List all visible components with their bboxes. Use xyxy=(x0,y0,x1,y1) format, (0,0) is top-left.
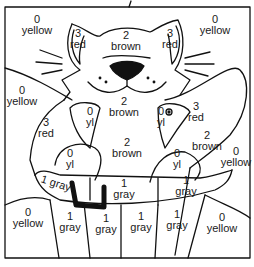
region-label: 0yellow xyxy=(200,14,231,36)
top-tick xyxy=(129,1,131,7)
whiskers-left xyxy=(36,50,62,74)
region-label: 1gray xyxy=(130,211,151,233)
region-label: 0yellow xyxy=(13,207,44,229)
region-label: 3red xyxy=(70,28,86,50)
coloring-page: 0yellow 3red 2brown 3red 0yellow 0yellow… xyxy=(0,0,254,267)
slat-line xyxy=(84,203,90,258)
region-label: 0yl xyxy=(86,106,94,128)
whisker-dot xyxy=(105,81,107,83)
fish-left-outline xyxy=(70,103,100,148)
region-label: 0yl xyxy=(66,148,74,170)
whisker-dot xyxy=(147,77,149,79)
whiskers-right xyxy=(185,52,214,76)
region-label: 1gray xyxy=(113,178,134,200)
region-label: 2brown xyxy=(109,96,139,118)
region-label: 3red xyxy=(38,117,54,139)
region-label: 1gray xyxy=(59,211,80,233)
bg-bottom-left-curve xyxy=(5,198,50,205)
brow-line xyxy=(103,56,150,58)
region-label: 2brown xyxy=(192,130,222,152)
region-label: 1gray xyxy=(95,213,116,235)
region-label: 3red xyxy=(162,28,178,50)
region-label: 0yellow xyxy=(207,212,238,234)
fish-eye-pupil xyxy=(168,111,170,113)
region-label: 1gray xyxy=(166,209,187,231)
region-label: 0yellow xyxy=(7,85,38,107)
slat-line xyxy=(188,195,205,258)
region-label: 2brown xyxy=(111,30,141,52)
region-label: 1gray xyxy=(175,175,196,197)
region-label: 0yellow xyxy=(221,146,252,168)
region-label: 3red xyxy=(188,101,204,123)
nose-icon xyxy=(110,62,144,81)
slat-line xyxy=(50,200,59,258)
region-label: 0yellow xyxy=(22,14,53,36)
region-label: 0yl xyxy=(173,148,181,170)
region-label: 2brown xyxy=(112,137,142,159)
slat-line xyxy=(155,205,158,258)
whisker-dot xyxy=(99,77,101,79)
basket-rim-top xyxy=(35,170,232,178)
region-label: 0yl xyxy=(157,106,165,128)
whisker-dot xyxy=(153,81,155,83)
